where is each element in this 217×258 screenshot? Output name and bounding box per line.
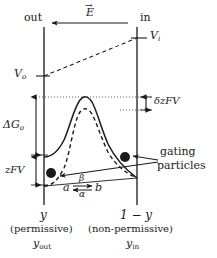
bottom-left-variable: yout (33, 238, 51, 249)
potential-outside-label: Vo (14, 68, 26, 79)
potential-inside-label: Vi (150, 30, 160, 41)
electric-field-label: → E (86, 7, 94, 18)
energy-barrier-dashed-curve (44, 109, 137, 186)
gating-arrow-to-left-particle (60, 162, 158, 176)
kinetic-state-a: a (63, 182, 70, 193)
gating-particle-left (46, 168, 56, 178)
vector-arrow-icon: → (85, 1, 93, 10)
bottom-right-descriptor: (non-permissive) (88, 224, 173, 234)
bottom-right-fraction: 1 − y (120, 209, 152, 221)
rate-constant-alpha: α (79, 190, 85, 199)
bottom-right-variable: yin (126, 238, 139, 249)
gating-energy-diagram: out in → E Vo Vi ΔGo zFV δzFV gating par… (0, 0, 217, 258)
delta-zfv-label: δzFV (154, 96, 179, 106)
gating-particles-label-line2: particles (157, 160, 206, 171)
gating-particle-right (120, 152, 130, 162)
axis-label-out: out (24, 12, 42, 23)
diagram-canvas (0, 0, 217, 258)
kinetic-state-b: b (95, 182, 102, 193)
zfv-label: zFV (5, 165, 24, 175)
rate-constant-beta: β (79, 174, 84, 183)
energy-barrier-solid-curve (44, 97, 137, 178)
well-baseline (44, 178, 137, 186)
bottom-left-fraction: y (40, 209, 47, 221)
axis-label-in: in (140, 12, 151, 23)
gating-particles-label-line1: gating (160, 146, 196, 157)
membrane-potential-line (44, 38, 137, 76)
bottom-left-descriptor: (permissive) (10, 224, 73, 234)
delta-g-label: ΔGo (3, 119, 24, 130)
